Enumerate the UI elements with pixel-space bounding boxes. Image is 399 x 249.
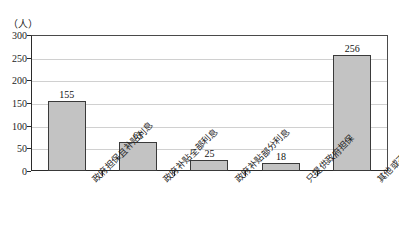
- bar: [190, 160, 228, 171]
- bar-value-label: 256: [345, 43, 360, 54]
- bar: [48, 101, 86, 171]
- y-axis-tick-label: 300: [12, 30, 27, 41]
- bar-slot: 155: [31, 35, 102, 171]
- y-axis-tick-label: 250: [12, 52, 27, 63]
- x-axis-category-label: 只提供政府担保: [303, 176, 312, 185]
- bar-slot: 18: [245, 35, 316, 171]
- bar-value-label: 18: [276, 151, 286, 162]
- y-axis-tick-label: 200: [12, 75, 27, 86]
- x-axis-category-label: 政府担保且补贴利息: [89, 176, 98, 185]
- bar-slot: 65: [102, 35, 173, 171]
- y-axis-tick-label: 100: [12, 120, 27, 131]
- bar-slot: 256: [317, 35, 388, 171]
- y-axis-tick-label: 50: [17, 143, 27, 154]
- bar-chart-figure: （人） 050100150200250300 155652518256 政府担保…: [0, 0, 399, 249]
- bar-value-label: 155: [59, 89, 74, 100]
- y-axis-tick-label: 150: [12, 98, 27, 109]
- x-axis-category-label: 政府补贴全部利息: [160, 176, 169, 185]
- bar-slot: 25: [174, 35, 245, 171]
- x-axis-category-labels: 政府担保且补贴利息政府补贴全部利息政府补贴部分利息只提供政府担保其他或不考虑: [31, 176, 388, 249]
- bar-value-label: 25: [204, 148, 214, 159]
- x-axis-category-label: 政府补贴部分利息: [232, 176, 241, 185]
- bar: [262, 163, 300, 171]
- x-axis-category-label: 其他或不考虑: [374, 176, 383, 185]
- y-axis-tick-labels: 050100150200250300: [0, 35, 27, 171]
